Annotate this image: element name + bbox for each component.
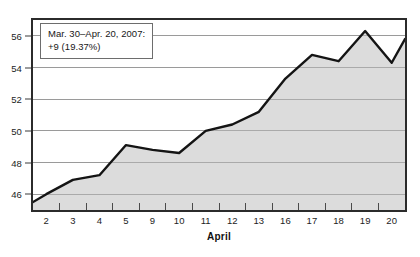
y-tick-label: 52 [11, 94, 22, 105]
x-tick-label: 3 [70, 215, 75, 226]
y-tick-label: 56 [11, 30, 22, 41]
x-tick-label: 17 [307, 215, 318, 226]
annotation-line-1: Mar. 30–Apr. 20, 2007: [48, 28, 145, 41]
y-tick-label: 50 [11, 125, 22, 136]
x-tick-label: 12 [227, 215, 238, 226]
x-tick-label: 13 [253, 215, 264, 226]
x-tick-label: 9 [150, 215, 155, 226]
x-tick-label: 18 [333, 215, 344, 226]
annotation-line-2: +9 (19.37%) [48, 41, 145, 54]
x-tick-label: 19 [360, 215, 371, 226]
x-tick-label: 4 [97, 215, 102, 226]
chart-root: 464850525456 23459101112131617181920 Apr… [0, 0, 420, 257]
y-tick-label: 48 [11, 157, 22, 168]
y-axis: 464850525456 [0, 18, 31, 212]
annotation-callout: Mar. 30–Apr. 20, 2007: +9 (19.37%) [40, 23, 153, 59]
x-tick-label: 20 [386, 215, 397, 226]
x-axis: 23459101112131617181920 [31, 213, 407, 233]
y-tick-label: 54 [11, 62, 22, 73]
x-tick-label: 11 [201, 215, 211, 226]
x-tick-label: 10 [174, 215, 185, 226]
y-tick-label: 46 [11, 189, 22, 200]
x-axis-title: April [31, 231, 407, 242]
x-tick-label: 5 [123, 215, 128, 226]
x-tick-label: 2 [44, 215, 49, 226]
x-tick-label: 16 [280, 215, 291, 226]
